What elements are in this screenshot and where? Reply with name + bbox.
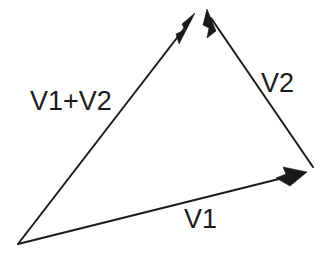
- vector-label-v1: V1: [184, 206, 217, 233]
- vector-resultant-line: [18, 21, 190, 244]
- vector-resultant-v1-plus-v2: [18, 13, 195, 244]
- vector-addition-diagram: V1+V2 V2 V1: [0, 0, 332, 253]
- vector-v1-line: [18, 176, 291, 244]
- vector-diagram-canvas: [0, 0, 332, 253]
- vector-label-v2: V2: [261, 70, 294, 97]
- vector-resultant-arrowhead: [176, 13, 195, 44]
- vector-v2: [203, 9, 313, 167]
- vector-v1: [18, 167, 307, 244]
- vector-v1-arrowhead: [276, 167, 307, 186]
- vector-label-resultant: V1+V2: [30, 88, 112, 115]
